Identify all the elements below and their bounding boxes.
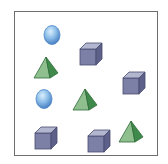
cube-front-face bbox=[35, 133, 51, 149]
shapes-canvas bbox=[0, 0, 168, 164]
cube-1-cube-icon bbox=[80, 43, 102, 65]
cube-front-face bbox=[80, 49, 96, 65]
pyramid-3-pyramid-icon bbox=[119, 121, 143, 142]
cube-2-cube-icon bbox=[123, 72, 145, 94]
cube-4-cube-icon bbox=[88, 130, 110, 152]
cube-front-face bbox=[123, 78, 139, 94]
sphere-1-sphere-icon bbox=[44, 26, 60, 45]
pyramid-2-pyramid-icon bbox=[73, 89, 97, 110]
cube-3-cube-icon bbox=[35, 127, 57, 149]
sphere-2-sphere-icon bbox=[36, 90, 52, 109]
pyramid-1-pyramid-icon bbox=[34, 57, 58, 78]
cube-front-face bbox=[88, 136, 104, 152]
